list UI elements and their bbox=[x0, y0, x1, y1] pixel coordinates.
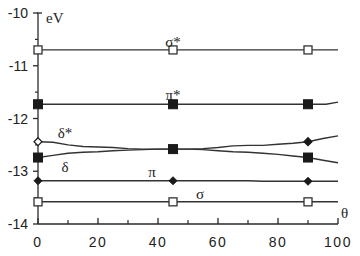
sigma-label: σ bbox=[196, 186, 204, 202]
y-tick-label: -11 bbox=[9, 58, 28, 74]
pi-star-curve bbox=[38, 102, 338, 104]
sigma-marker-open-square-icon bbox=[304, 198, 312, 206]
sigma-marker-open-square-icon bbox=[34, 198, 42, 206]
pi-marker-filled-diamond-icon bbox=[34, 177, 42, 185]
x-tick-label: 40 bbox=[149, 234, 168, 250]
sigma-star-marker-open-square-icon bbox=[304, 46, 312, 54]
sigma-star-label: σ* bbox=[165, 34, 181, 50]
x-tick-label: 0 bbox=[33, 234, 42, 250]
y-tick-label: -10 bbox=[8, 5, 28, 21]
y-tick-label: -12 bbox=[8, 111, 28, 127]
pi-star-marker-filled-square-icon bbox=[34, 100, 43, 109]
x-tick-label: 60 bbox=[209, 234, 228, 250]
y-tick-label: -13 bbox=[8, 163, 28, 179]
pi-curve bbox=[38, 181, 338, 182]
pi-star-marker-filled-square-icon bbox=[304, 100, 313, 109]
pi-star-label: π* bbox=[165, 87, 180, 103]
sigma-marker-open-square-icon bbox=[169, 198, 177, 206]
pi-label: π bbox=[148, 164, 156, 180]
delta-marker-filled-square-icon bbox=[34, 153, 43, 162]
delta-curve bbox=[38, 149, 338, 163]
delta-star-curve bbox=[38, 136, 338, 149]
y-axis-unit-label: eV bbox=[46, 10, 64, 26]
delta-label: δ bbox=[61, 159, 68, 175]
energy-vs-theta-chart: -10-11-12-13-14020406080100 σ*π*δ*δπσ eV… bbox=[0, 0, 360, 256]
x-tick-label: 100 bbox=[324, 234, 352, 250]
x-axis-label: θ bbox=[341, 205, 348, 221]
pi-marker-filled-diamond-icon bbox=[304, 177, 312, 185]
delta-marker-filled-square-icon bbox=[169, 145, 178, 154]
x-tick-label: 80 bbox=[269, 234, 288, 250]
x-tick-label: 20 bbox=[89, 234, 108, 250]
delta-marker-filled-square-icon bbox=[304, 153, 313, 162]
sigma-star-marker-open-square-icon bbox=[34, 46, 42, 54]
delta-star-label: δ* bbox=[58, 125, 73, 141]
y-tick-label: -14 bbox=[8, 216, 28, 232]
pi-marker-filled-diamond-icon bbox=[169, 177, 177, 185]
delta-star-marker-diamond-icon bbox=[304, 138, 312, 146]
curve-labels: σ*π*δ*δπσ bbox=[58, 34, 204, 202]
curves bbox=[38, 50, 338, 202]
